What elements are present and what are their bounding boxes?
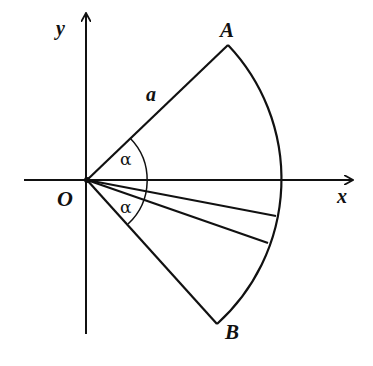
diagram-graphics — [0, 0, 373, 366]
y-axis-label: y — [56, 18, 65, 38]
sector-diagram: y A a α α O x B — [0, 0, 373, 366]
radius-oa — [87, 45, 228, 180]
sector-arc — [217, 45, 281, 324]
origin-point — [84, 177, 90, 183]
point-a-label: A — [220, 20, 234, 41]
sector — [87, 45, 281, 324]
angle-lower-label: α — [120, 199, 131, 216]
x-axis-label: x — [337, 186, 347, 206]
radius-label: a — [146, 84, 156, 104]
point-b-label: B — [225, 322, 239, 343]
angle-upper-label: α — [120, 151, 131, 168]
origin-label: O — [57, 188, 73, 210]
